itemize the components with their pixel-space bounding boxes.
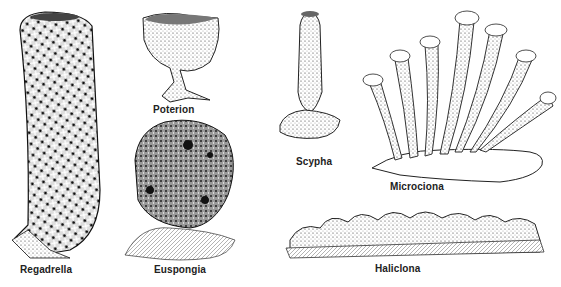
- scypha-drawing: [280, 11, 340, 138]
- label-microciona: Microciona: [390, 181, 444, 192]
- regadrella-drawing: [12, 12, 100, 258]
- euspongia-drawing: [125, 120, 235, 260]
- label-regadrella: Regadrella: [20, 264, 72, 275]
- haliclona-drawing: [286, 212, 544, 258]
- sponge-illustration: Regadrella Poterion Euspongia Scypha Mic…: [0, 0, 561, 287]
- microciona-drawing: [363, 11, 556, 182]
- label-haliclona: Haliclona: [375, 263, 420, 274]
- label-euspongia: Euspongia: [154, 264, 206, 275]
- label-poterion: Poterion: [153, 104, 194, 115]
- drawings: [0, 0, 561, 287]
- poterion-drawing: [143, 13, 219, 102]
- label-scypha: Scypha: [296, 156, 332, 167]
